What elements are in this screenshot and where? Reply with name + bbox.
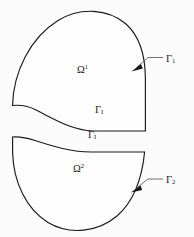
label-gamma-interface-lower-subscript: I (94, 133, 96, 140)
label-omega-2: Ω2 (73, 163, 84, 174)
label-gamma-1-subscript: 1 (172, 57, 175, 64)
figure-canvas: Ω1 Ω2 Γ1 Γ2 ΓI ΓI (0, 0, 194, 237)
label-omega-2-base: Ω (73, 163, 81, 174)
label-omega-1: Ω1 (77, 64, 88, 75)
label-omega-1-base: Ω (77, 64, 85, 75)
label-gamma-interface-lower: ΓI (88, 130, 96, 141)
figure-drawing (0, 0, 194, 237)
label-gamma-1: Γ1 (166, 54, 176, 65)
lower-subdomain-outline (13, 137, 145, 231)
label-gamma-interface-upper-subscript: I (101, 108, 103, 115)
label-gamma-interface-upper: ΓI (95, 105, 103, 116)
label-omega-2-superscript: 2 (81, 162, 84, 169)
label-gamma-2-subscript: 2 (172, 178, 175, 185)
label-omega-1-superscript: 1 (85, 63, 88, 70)
label-gamma-2: Γ2 (166, 175, 176, 186)
